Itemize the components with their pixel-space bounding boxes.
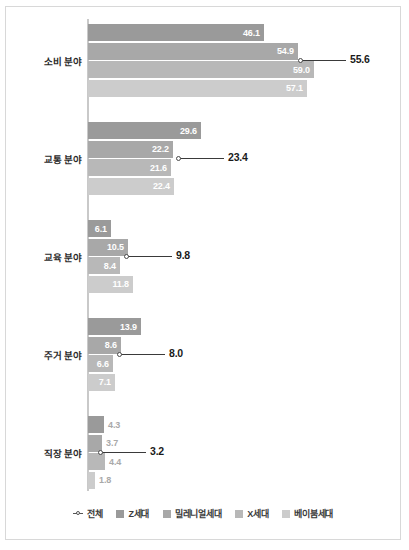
bar-value-label: 8.6: [105, 340, 117, 350]
bar-value-label: 7.1: [99, 377, 111, 387]
bar-row[interactable]: 1.8: [88, 472, 95, 489]
bar-value-label: 3.7: [106, 438, 118, 448]
bar-group: 교육 분야6.110.58.411.89.8: [6, 220, 400, 294]
total-marker-point[interactable]: [98, 450, 103, 455]
category-label: 직장 분야: [0, 446, 82, 460]
bar-value-label: 4.3: [108, 420, 120, 430]
bar-value-label: 29.6: [180, 126, 197, 136]
bar-row[interactable]: 7.1: [88, 374, 115, 391]
bar[interactable]: [88, 435, 102, 452]
total-marker-point[interactable]: [117, 352, 122, 357]
bar-value-label: 11.8: [112, 279, 129, 289]
category-label: 소비 분야: [0, 54, 82, 68]
legend-label: 베이붐세대: [294, 507, 333, 520]
line-circle-marker-icon: [73, 510, 83, 518]
bar-row[interactable]: 4.3: [88, 416, 104, 433]
bar-row[interactable]: 6.6: [88, 355, 113, 372]
total-value-label: 3.2: [150, 445, 164, 457]
bar-row[interactable]: 8.6: [88, 337, 121, 354]
total-value-label: 55.6: [350, 53, 370, 65]
bar[interactable]: [88, 472, 95, 489]
legend-swatch-icon: [163, 510, 171, 518]
legend-swatch-icon: [282, 510, 290, 518]
bar-value-label: 22.2: [152, 144, 169, 154]
bar[interactable]: [88, 416, 104, 433]
bar-value-label: 8.4: [104, 261, 116, 271]
bar-value-label: 59.0: [293, 65, 310, 75]
bar-row[interactable]: 46.1: [88, 24, 264, 41]
bar[interactable]: [88, 453, 105, 470]
bar-group: 소비 분야46.154.959.057.155.6: [6, 24, 400, 98]
bar[interactable]: [88, 80, 307, 97]
total-connector-line: [300, 60, 346, 61]
bar-row[interactable]: 4.4: [88, 453, 105, 470]
total-connector-line: [100, 452, 146, 453]
bar-row[interactable]: 3.7: [88, 435, 102, 452]
bar-row[interactable]: 11.8: [88, 276, 133, 293]
legend-label: 밀레니얼세대: [175, 507, 221, 520]
bar-row[interactable]: 54.9: [88, 43, 298, 60]
total-marker-point[interactable]: [176, 156, 181, 161]
total-marker-point[interactable]: [124, 254, 129, 259]
bar-value-label: 54.9: [277, 46, 294, 56]
bar-value-label: 21.6: [150, 163, 167, 173]
bar-value-label: 10.5: [107, 242, 124, 252]
bar-value-label: 46.1: [243, 28, 260, 38]
bar-row[interactable]: 13.9: [88, 318, 141, 335]
total-connector-line: [178, 158, 224, 159]
bar-value-label: 6.6: [97, 359, 109, 369]
legend-swatch-icon: [116, 510, 124, 518]
bar[interactable]: [88, 24, 264, 41]
bar-group: 주거 분야13.98.66.67.18.0: [6, 318, 400, 392]
category-label: 교통 분야: [0, 152, 82, 166]
total-value-label: 23.4: [228, 151, 248, 163]
legend-swatch-icon: [235, 510, 243, 518]
plot-area: 소비 분야46.154.959.057.155.6교통 분야29.622.221…: [6, 7, 400, 499]
bar-value-label: 1.8: [99, 475, 111, 485]
chart-legend: 전체Z세대밀레니얼세대X세대베이붐세대: [6, 507, 400, 520]
total-value-label: 9.8: [176, 249, 190, 261]
bar-row[interactable]: 8.4: [88, 257, 120, 274]
bar-value-label: 22.4: [153, 181, 170, 191]
bar-row[interactable]: 22.2: [88, 141, 173, 158]
legend-item[interactable]: 밀레니얼세대: [163, 507, 221, 520]
bar-group: 직장 분야4.33.74.41.83.2: [6, 416, 400, 490]
legend-label: Z세대: [128, 507, 149, 520]
category-label: 교육 분야: [0, 250, 82, 264]
legend-item[interactable]: 베이붐세대: [282, 507, 333, 520]
bar-row[interactable]: 57.1: [88, 80, 307, 97]
total-connector-line: [126, 256, 172, 257]
bar-row[interactable]: 29.6: [88, 122, 201, 139]
total-marker-point[interactable]: [298, 58, 303, 63]
total-connector-line: [119, 354, 165, 355]
chart-card: 소비 분야46.154.959.057.155.6교통 분야29.622.221…: [5, 6, 401, 540]
bar[interactable]: [88, 61, 314, 78]
bar-row[interactable]: 59.0: [88, 61, 314, 78]
bar-group: 교통 분야29.622.221.622.423.4: [6, 122, 400, 196]
bar-value-label: 6.1: [95, 224, 107, 234]
bar-value-label: 57.1: [286, 83, 303, 93]
bar-row[interactable]: 10.5: [88, 239, 128, 256]
legend-item[interactable]: Z세대: [116, 507, 149, 520]
legend-item[interactable]: 전체: [73, 507, 102, 520]
bar-row[interactable]: 22.4: [88, 178, 174, 195]
total-value-label: 8.0: [169, 347, 183, 359]
legend-label: X세대: [247, 507, 268, 520]
bar[interactable]: [88, 43, 298, 60]
bar-value-label: 4.4: [109, 457, 121, 467]
category-label: 주거 분야: [0, 348, 82, 362]
bar-row[interactable]: 6.1: [88, 220, 111, 237]
bar-row[interactable]: 21.6: [88, 159, 171, 176]
legend-label: 전체: [87, 507, 102, 520]
legend-item[interactable]: X세대: [235, 507, 268, 520]
bar-value-label: 13.9: [120, 322, 137, 332]
